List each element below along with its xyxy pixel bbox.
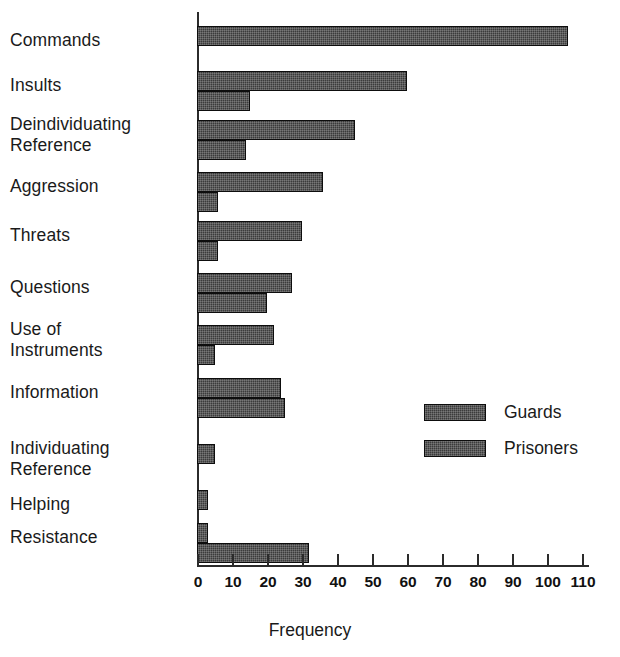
x-tick-9 — [512, 554, 514, 565]
plot-area — [197, 12, 585, 565]
bar-guards-4 — [197, 221, 302, 241]
bar-prisoners-1 — [197, 91, 250, 111]
x-tick-6 — [407, 554, 409, 565]
x-tick-label-0: 0 — [194, 573, 203, 591]
category-axis-labels: CommandsInsultsDeindividuating Reference… — [0, 0, 186, 560]
category-label-1: Insults — [10, 75, 178, 96]
bar-guards-5 — [197, 273, 292, 293]
bar-prisoners-4 — [197, 241, 218, 261]
bar-guards-3 — [197, 172, 323, 192]
category-label-6: Use of Instruments — [10, 319, 178, 361]
x-tick-label-2: 20 — [259, 573, 276, 591]
x-tick-label-1: 10 — [224, 573, 241, 591]
x-tick-8 — [477, 554, 479, 565]
bar-guards-6 — [197, 325, 274, 345]
category-label-4: Threats — [10, 225, 178, 246]
x-tick-label-9: 90 — [504, 573, 521, 591]
bar-prisoners-3 — [197, 192, 218, 212]
bar-guards-1 — [197, 71, 407, 91]
legend-swatch-prisoners — [424, 440, 486, 457]
x-tick-label-4: 40 — [329, 573, 346, 591]
x-tick-label-3: 30 — [294, 573, 311, 591]
x-tick-1 — [232, 554, 234, 565]
x-tick-2 — [267, 554, 269, 565]
legend-label-prisoners: Prisoners — [504, 438, 578, 459]
x-tick-7 — [442, 554, 444, 565]
category-label-3: Aggression — [10, 176, 178, 197]
bar-prisoners-10 — [197, 543, 309, 563]
x-tick-label-8: 80 — [469, 573, 486, 591]
legend-label-guards: Guards — [504, 402, 561, 423]
bar-prisoners-2 — [197, 140, 246, 160]
category-label-0: Commands — [10, 30, 178, 51]
bar-guards-2 — [197, 120, 355, 140]
bar-prisoners-6 — [197, 345, 215, 365]
x-tick-label-6: 60 — [399, 573, 416, 591]
category-label-9: Helping — [10, 494, 178, 515]
x-tick-label-7: 70 — [434, 573, 451, 591]
bar-prisoners-7 — [197, 398, 285, 418]
x-axis-title: Frequency — [0, 620, 620, 641]
x-tick-4 — [337, 554, 339, 565]
bar-guards-7 — [197, 378, 281, 398]
category-label-5: Questions — [10, 277, 178, 298]
x-tick-label-11: 110 — [570, 573, 595, 591]
x-tick-10 — [547, 554, 549, 565]
bar-guards-9 — [197, 490, 208, 510]
bar-guards-0 — [197, 26, 568, 46]
bar-prisoners-5 — [197, 293, 267, 313]
legend-item-prisoners: Prisoners — [424, 438, 578, 459]
x-tick-3 — [302, 554, 304, 565]
x-tick-label-5: 50 — [364, 573, 381, 591]
category-label-10: Resistance — [10, 527, 178, 548]
legend-swatch-guards — [424, 404, 486, 421]
bar-guards-8 — [197, 444, 215, 464]
bar-guards-10 — [197, 523, 208, 543]
value-axis-line: 0102030405060708090100110 — [197, 565, 589, 567]
category-label-2: Deindividuating Reference — [10, 114, 178, 156]
bar-chart: CommandsInsultsDeindividuating Reference… — [0, 0, 620, 657]
x-tick-label-10: 100 — [535, 573, 561, 591]
category-label-7: Information — [10, 382, 178, 403]
x-tick-5 — [372, 554, 374, 565]
x-tick-0 — [197, 554, 199, 565]
x-tick-11 — [582, 554, 584, 565]
legend-item-guards: Guards — [424, 402, 561, 423]
category-label-8: Individuating Reference — [10, 438, 178, 480]
